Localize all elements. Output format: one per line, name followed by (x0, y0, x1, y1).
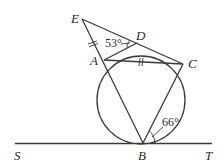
angle-label-66: 66° (162, 115, 179, 129)
angle-label-53: 53° (105, 36, 122, 50)
label-A: A (89, 53, 98, 68)
label-S: S (14, 148, 21, 163)
circle (97, 56, 185, 144)
label-C: C (188, 56, 197, 71)
label-B: B (138, 148, 146, 163)
angle-pointer-D (121, 43, 130, 44)
label-E: E (70, 11, 79, 26)
label-D: D (135, 28, 146, 43)
geometry-diagram: E D A C B S T 53° 66° (0, 0, 224, 166)
label-T: T (205, 148, 213, 163)
